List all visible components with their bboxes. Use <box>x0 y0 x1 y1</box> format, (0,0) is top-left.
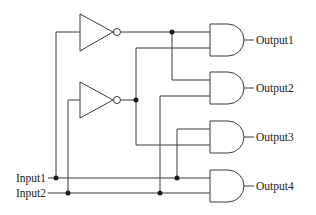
input2-label: Input2 <box>16 187 46 200</box>
not1-output-wire <box>121 32 210 80</box>
output1-label: Output1 <box>256 34 294 47</box>
junction-not1 <box>170 30 175 35</box>
and-gate-4 <box>210 170 254 202</box>
input1-label: Input1 <box>16 172 46 185</box>
decoder-circuit: Input1 Input2 Output1 Output2 Output3 Ou… <box>0 0 316 215</box>
junction-input1-branch <box>175 176 180 181</box>
not-gate-1 <box>80 14 121 51</box>
junction-input2 <box>66 191 71 196</box>
and-gate-1 <box>210 24 254 56</box>
output3-label: Output3 <box>256 131 294 144</box>
input2-wire <box>48 100 210 193</box>
and-gate-3 <box>210 121 254 153</box>
output4-label: Output4 <box>256 180 294 193</box>
input1-branch <box>177 129 210 178</box>
output2-label: Output2 <box>256 82 294 95</box>
not-gate-2 <box>80 82 121 118</box>
and-gate-2 <box>210 72 254 104</box>
junction-input1 <box>54 176 59 181</box>
junction-input2-branch <box>158 191 163 196</box>
junction-not2 <box>134 98 139 103</box>
input1-wire <box>48 32 210 178</box>
